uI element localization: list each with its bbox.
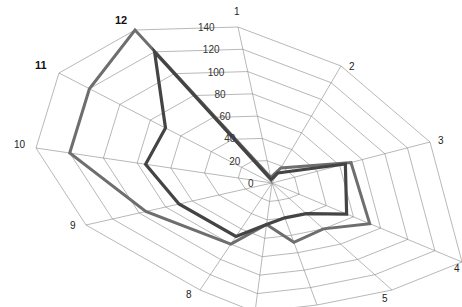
tick-label: 40 xyxy=(224,133,236,144)
axis-label-3: 3 xyxy=(438,135,444,146)
radar-grid xyxy=(36,27,462,307)
tick-label: 120 xyxy=(203,44,220,55)
grid-ring-40 xyxy=(205,138,327,219)
tick-label: 80 xyxy=(215,89,227,100)
tick-label: 140 xyxy=(198,22,215,33)
axis-label-11: 11 xyxy=(35,59,47,71)
tick-label: 0 xyxy=(248,178,254,189)
grid-ring-100 xyxy=(103,72,407,276)
series-line-2 xyxy=(146,52,347,237)
grid-ring-60 xyxy=(171,116,354,238)
spoke-6 xyxy=(272,183,317,305)
tick-label: 20 xyxy=(229,156,241,167)
radar-series xyxy=(70,30,370,244)
axis-label-5: 5 xyxy=(382,293,388,304)
spoke-5 xyxy=(272,183,392,290)
spoke-7 xyxy=(255,183,272,307)
axis-label-8: 8 xyxy=(186,289,192,300)
axis-label-9: 9 xyxy=(70,220,76,231)
axis-label-1: 1 xyxy=(234,6,240,17)
axis-label-2: 2 xyxy=(349,61,355,72)
radar-chart: 020406080100120140 123456789101112 xyxy=(0,0,462,307)
series-line-1 xyxy=(70,30,370,244)
tick-label: 100 xyxy=(208,67,225,78)
axis-label-4: 4 xyxy=(454,263,460,274)
grid-ring-120 xyxy=(70,49,435,293)
axis-label-10: 10 xyxy=(14,139,26,150)
axis-label-12: 12 xyxy=(115,14,127,26)
tick-label: 60 xyxy=(219,111,231,122)
